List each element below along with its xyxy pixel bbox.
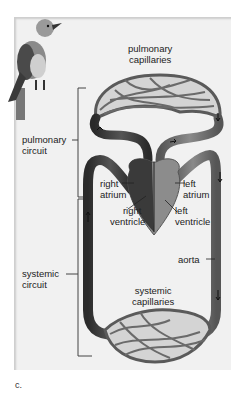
label-line: systemic bbox=[22, 268, 59, 279]
label-right-atrium: right atrium bbox=[100, 178, 126, 200]
label-line: pulmonary bbox=[22, 134, 66, 145]
label-line: atrium bbox=[183, 189, 209, 200]
label-left-atrium: left atrium bbox=[183, 178, 209, 200]
label-systemic-circuit: systemic circuit bbox=[22, 268, 59, 290]
label-line: right bbox=[100, 178, 126, 189]
label-line: atrium bbox=[100, 189, 126, 200]
label-line: left bbox=[175, 205, 210, 216]
label-pulmonary-capillaries: pulmonary capillaries bbox=[128, 43, 172, 65]
pulmonary-artery bbox=[94, 118, 148, 160]
label-line: ventricle bbox=[175, 216, 210, 227]
label-line: right bbox=[110, 205, 145, 216]
panel-label: c. bbox=[15, 380, 22, 390]
pulmonary-capillaries bbox=[96, 75, 221, 118]
systemic-capillaries bbox=[105, 310, 210, 362]
label-aorta: aorta bbox=[178, 254, 200, 265]
label-systemic-capillaries: systemic capillaries bbox=[132, 285, 174, 307]
bird-icon bbox=[8, 19, 62, 120]
label-line: left bbox=[183, 178, 209, 189]
label-line: systemic bbox=[132, 285, 174, 296]
label-line: circuit bbox=[22, 145, 66, 156]
label-line: circuit bbox=[22, 279, 59, 290]
label-left-ventricle: left ventricle bbox=[175, 205, 210, 227]
label-line: capillaries bbox=[132, 296, 174, 307]
label-line: capillaries bbox=[128, 54, 172, 65]
label-line: ventricle bbox=[110, 216, 145, 227]
label-right-ventricle: right ventricle bbox=[110, 205, 145, 227]
label-pulmonary-circuit: pulmonary circuit bbox=[22, 134, 66, 156]
label-line: pulmonary bbox=[128, 43, 172, 54]
